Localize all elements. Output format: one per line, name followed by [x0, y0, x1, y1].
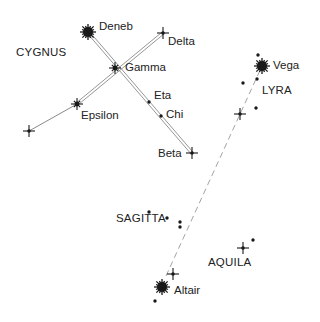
star-beta-icon — [186, 147, 198, 159]
star-eta-icon — [147, 100, 150, 103]
star-unnamed-icon — [255, 77, 258, 80]
star-unnamed-icon — [153, 299, 156, 302]
star-altair-icon — [154, 279, 170, 295]
star-label-delta: Delta — [168, 36, 195, 48]
star-label-chi: Chi — [166, 109, 183, 121]
star-gamma-icon — [109, 62, 121, 74]
star-unnamed-icon — [178, 220, 181, 223]
star-vega-icon — [254, 58, 270, 74]
star-label-eta: Eta — [154, 90, 171, 102]
star-unnamed-icon — [251, 238, 254, 241]
star-unnamed-icon — [23, 125, 35, 137]
star-label-vega: Vega — [273, 60, 299, 72]
line-altair-vega — [166, 66, 262, 276]
star-unnamed-icon — [241, 81, 244, 84]
star-deneb-icon — [80, 24, 96, 40]
star-label-epsilon: Epsilon — [81, 110, 119, 122]
star-unnamed-icon — [256, 53, 259, 56]
star-unnamed-icon — [234, 108, 246, 120]
star-unnamed-icon — [178, 225, 181, 228]
star-unnamed-icon — [167, 268, 179, 280]
line-epsilon-far-left — [29, 104, 77, 131]
star-chi-icon — [159, 114, 162, 117]
star-unnamed-icon — [237, 242, 249, 254]
star-label-gamma: Gamma — [125, 62, 166, 74]
star-label-altair: Altair — [174, 285, 200, 297]
line-deneb-beta — [87, 31, 193, 154]
constellation-label-lyra: LYRA — [262, 85, 292, 97]
star-label-deneb: Deneb — [99, 21, 133, 33]
star-unnamed-icon — [254, 106, 257, 109]
constellation-label-aquila: AQUILA — [208, 257, 251, 269]
constellation-label-sagitta: SAGITTA — [116, 213, 166, 225]
star-label-beta: Beta — [158, 148, 182, 160]
constellation-label-cygnus: CYGNUS — [16, 47, 66, 59]
